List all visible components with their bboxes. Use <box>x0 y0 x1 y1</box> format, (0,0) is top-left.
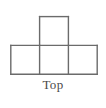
figure-caption-label: Top <box>0 77 106 92</box>
figure-screenshot: Top <box>0 0 106 108</box>
